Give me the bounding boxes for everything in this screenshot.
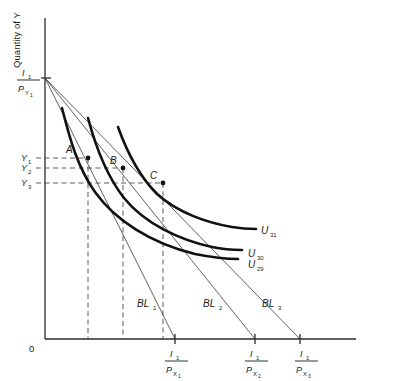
x-intercept-2-numerator-sub: 1: [256, 355, 260, 361]
budget-line-label-2-text: BL: [203, 298, 215, 309]
y-tick-2-sub: 2: [28, 169, 32, 175]
budget-line-label-3-text: BL: [262, 298, 274, 309]
budget-line-label-1-text: BL: [137, 298, 149, 309]
y-tick-label-3: Y 3: [21, 178, 32, 190]
budget-line-label-1: BL 1: [137, 298, 157, 311]
y-axis-title-group: Quantity of Y: [11, 11, 22, 68]
y-intercept-denominator-sub: Y: [25, 90, 29, 96]
curve-label-u31-sub: 31: [270, 232, 277, 238]
x-intercept-label-2: I 1 P X 2: [245, 334, 268, 379]
x-intercept-2-numerator: I: [250, 349, 253, 359]
tangency-point-b: [121, 166, 126, 171]
curve-label-u30-text: U: [248, 248, 256, 259]
y-tick-3-text: Y: [21, 178, 28, 188]
budget-line-label-2: BL 2: [203, 298, 223, 311]
y-tick-labels-group: Y 1 Y 2 Y 3: [21, 153, 32, 190]
chart-svg: Quantity of Y 0 I 1 P Y 1 Y 1 Y 2 Y 3: [0, 0, 400, 381]
axes-group: [45, 18, 356, 339]
vertical-guides-group: [88, 158, 163, 339]
y-intercept-numerator-sub: 1: [28, 74, 32, 80]
curve-label-u30-sub: 30: [257, 255, 264, 261]
curve-label-u31-text: U: [261, 225, 269, 236]
budget-line-label-1-sub: 1: [153, 305, 157, 311]
x-intercept-1-numerator: I: [170, 349, 173, 359]
x-intercept-2-denominator-sub: X: [253, 371, 257, 377]
tangency-point-c-label: C: [150, 170, 158, 181]
budget-line-label-2-sub: 2: [219, 305, 223, 311]
tangency-point-a: [86, 156, 91, 161]
tangency-point-a-label: A: [65, 144, 73, 155]
curve-label-u29-sub: 29: [257, 266, 264, 272]
y-axis-title: Quantity of Y: [11, 11, 22, 68]
x-intercept-labels-group: I 1 P X 1 I 1 P X 2 I 1 P X 3: [165, 334, 318, 379]
y-intercept-numerator: I: [22, 68, 25, 78]
curve-labels-group: U 31 U 30 U 29: [248, 225, 277, 272]
y-tick-1-sub: 1: [28, 159, 32, 165]
x-intercept-label-3: I 1 P X 3: [295, 334, 318, 379]
curve-label-u31: U 31: [261, 225, 277, 238]
y-intercept-denominator: P: [18, 84, 24, 94]
price-consumption-curve-figure: Quantity of Y 0 I 1 P Y 1 Y 1 Y 2 Y 3: [0, 0, 400, 381]
budget-line-labels-group: BL 1 BL 2 BL 3: [137, 298, 282, 311]
y-tick-2-text: Y: [21, 163, 28, 173]
x-intercept-2-denominator: P: [246, 365, 252, 375]
x-intercept-1-denominator-subsub: 1: [178, 373, 181, 379]
x-intercept-3-numerator-sub: 1: [306, 355, 310, 361]
x-intercept-label-1: I 1 P X 1: [165, 334, 188, 379]
tangency-point-b-label: B: [110, 155, 117, 166]
tangency-point-c: [161, 181, 166, 186]
y-tick-3-sub: 3: [28, 184, 32, 190]
x-intercept-2-denominator-subsub: 2: [258, 373, 261, 379]
x-intercept-1-denominator-sub: X: [173, 371, 177, 377]
y-intercept-denominator-subsub: 1: [30, 92, 33, 98]
budget-line-label-3: BL 3: [262, 298, 282, 311]
y-tick-1-text: Y: [21, 153, 28, 163]
x-intercept-3-numerator: I: [300, 349, 303, 359]
x-intercept-1-numerator-sub: 1: [176, 355, 180, 361]
x-intercept-1-denominator: P: [166, 365, 172, 375]
budget-line-2: [45, 78, 255, 339]
budget-line-label-3-sub: 3: [278, 305, 282, 311]
origin-label: 0: [29, 343, 34, 354]
indifference-curves-group: [62, 108, 256, 259]
y-intercept-label: I 1 P Y 1: [17, 68, 51, 98]
curve-label-u29-text: U: [248, 259, 256, 270]
x-intercept-3-denominator-sub: X: [303, 371, 307, 377]
x-intercept-3-denominator-subsub: 3: [308, 373, 311, 379]
x-intercept-3-denominator: P: [296, 365, 302, 375]
